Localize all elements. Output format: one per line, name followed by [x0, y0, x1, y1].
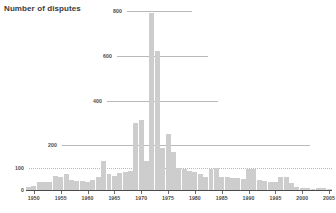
x-tick-mark-1965	[114, 191, 115, 194]
bar-1983	[209, 169, 214, 190]
x-tick-mark-1985	[222, 191, 223, 194]
bar-1954	[53, 176, 58, 190]
x-tick-mark-2000	[302, 191, 303, 194]
bar-1965	[112, 176, 117, 190]
bar-1991	[251, 169, 256, 190]
bar-1981	[198, 174, 203, 190]
x-axis-line	[26, 190, 332, 191]
gridline-200	[62, 145, 310, 146]
chart-container: Number of disputes 0100200400600800 1950…	[0, 0, 336, 213]
bar-1957	[69, 180, 74, 190]
bar-1972	[149, 13, 154, 190]
y-axis-label-600: 600	[72, 53, 112, 59]
bar-1967	[123, 172, 128, 190]
x-tick-mark-1970	[141, 191, 142, 194]
bar-1989	[241, 179, 246, 190]
x-axis-label-1970: 1970	[135, 195, 147, 201]
bar-1970	[139, 120, 144, 190]
bar-1960	[85, 182, 90, 191]
bar-1992	[257, 180, 262, 190]
bar-1987	[230, 178, 235, 190]
bar-1955	[58, 177, 63, 190]
y-axis-label-100: 100	[0, 165, 24, 171]
bar-1993	[262, 181, 267, 190]
bar-1974	[160, 148, 165, 191]
x-axis-label-1955: 1955	[55, 195, 67, 201]
x-tick-mark-1980	[195, 191, 196, 194]
bar-1988	[235, 178, 240, 190]
x-axis-label-1980: 1980	[189, 195, 201, 201]
x-axis-label-1950: 1950	[28, 195, 40, 201]
bar-1961	[90, 180, 95, 190]
bar-1956	[64, 174, 69, 190]
y-axis-label-0: 0	[0, 187, 24, 193]
y-axis-label-800: 800	[82, 8, 122, 14]
bar-1984	[214, 168, 219, 190]
bar-1978	[182, 169, 187, 190]
bar-1996	[278, 177, 283, 190]
bar-1964	[107, 174, 112, 190]
bar-1979	[187, 171, 192, 190]
y-axis-label-200: 200	[17, 142, 57, 148]
plot-area: 0100200400600800 19501955196019651970197…	[0, 0, 336, 213]
bar-1982	[203, 177, 208, 190]
x-tick-mark-1990	[249, 191, 250, 194]
x-tick-mark-1995	[275, 191, 276, 194]
x-tick-mark-1955	[61, 191, 62, 194]
bar-1962	[96, 177, 101, 190]
bar-1958	[74, 181, 79, 190]
bar-1966	[117, 173, 122, 190]
bar-1995	[273, 182, 278, 190]
y-axis-label-400: 400	[62, 98, 102, 104]
bar-1973	[155, 51, 160, 190]
x-axis-label-1975: 1975	[162, 195, 174, 201]
bar-1997	[284, 177, 289, 190]
gridline-800	[127, 11, 192, 12]
bar-1975	[166, 134, 171, 190]
x-tick-mark-1960	[88, 191, 89, 194]
bar-1968	[128, 171, 133, 190]
x-axis-label-1960: 1960	[82, 195, 94, 201]
x-axis-label-1995: 1995	[269, 195, 281, 201]
bar-1994	[268, 182, 273, 191]
bar-1985	[219, 177, 224, 190]
x-tick-mark-1975	[168, 191, 169, 194]
x-tick-mark-2005	[329, 191, 330, 194]
bar-1986	[225, 177, 230, 190]
bar-1951	[37, 182, 42, 190]
x-axis-label-1990: 1990	[243, 195, 255, 201]
bar-1952	[42, 182, 47, 190]
bar-1998	[289, 183, 294, 190]
x-axis-label-1985: 1985	[216, 195, 228, 201]
x-axis-label-2005: 2005	[323, 195, 335, 201]
x-axis-label-1965: 1965	[108, 195, 120, 201]
bar-1953	[47, 182, 52, 191]
gridline-600	[117, 56, 208, 57]
bar-1971	[144, 161, 149, 190]
bar-1980	[192, 172, 197, 190]
bar-1990	[246, 169, 251, 190]
bar-1959	[80, 181, 85, 190]
bar-1977	[176, 168, 181, 190]
bar-1963	[101, 161, 106, 190]
gridline-400	[107, 101, 218, 102]
x-axis-label-2000: 2000	[296, 195, 308, 201]
x-tick-mark-1950	[34, 191, 35, 194]
bar-1976	[171, 152, 176, 190]
bar-1969	[133, 123, 138, 190]
